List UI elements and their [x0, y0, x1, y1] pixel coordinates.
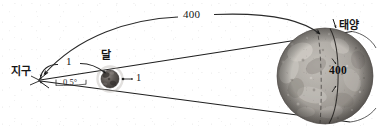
- earth-moon-distance-label: 1: [66, 56, 72, 67]
- sun-label-pointer: [333, 19, 336, 28]
- earth-sun-distance-label: 400: [183, 9, 200, 20]
- sun-label: 태양: [339, 20, 359, 31]
- angular-diameter-label: 0.5°: [63, 78, 77, 87]
- figure-canvas: 지구 달 태양 0.5° 1 1 400 400: [0, 0, 378, 126]
- earth-label: 지구: [11, 66, 31, 77]
- earth-sun-arrow-right: [214, 14, 320, 34]
- sun-diameter-label: 400: [329, 65, 347, 77]
- sun-body: [275, 28, 373, 124]
- earth-apex-whisker-lower: [30, 81, 39, 85]
- moon-label: 달: [101, 50, 111, 61]
- sun-pointer-arrow: [333, 19, 336, 28]
- earth-apex-whisker-upper: [31, 76, 39, 80]
- earth-moon-arrow-left: [41, 64, 59, 77]
- moon-diameter-arrow: [122, 78, 133, 81]
- moon-diameter-label: 1: [136, 73, 141, 84]
- sun-limb-shading: [277, 28, 373, 124]
